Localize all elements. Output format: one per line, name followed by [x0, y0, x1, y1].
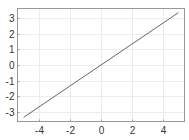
y-tick-label: 0 [9, 60, 15, 71]
y-tick-label: -2 [6, 91, 15, 102]
x-tick-label: -2 [66, 125, 75, 136]
y-tick-label: 2 [9, 29, 15, 40]
x-tick-label: 4 [161, 125, 167, 136]
x-tick-label: -4 [35, 125, 44, 136]
y-tick-label: 1 [9, 44, 15, 55]
line-chart: -4-2024 -3-2-10123 [0, 0, 189, 140]
y-tick-label: -3 [6, 107, 15, 118]
y-tick-label: 3 [9, 13, 15, 24]
x-tick-label: 2 [130, 125, 136, 136]
x-tick-label: 0 [99, 125, 105, 136]
y-tick-label: -1 [6, 76, 15, 87]
